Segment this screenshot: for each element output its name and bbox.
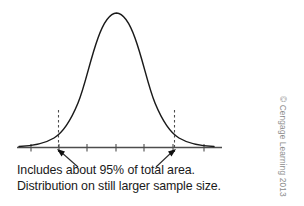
normal-distribution-figure: Includes about 95% of total area. Distri…	[0, 0, 304, 206]
caption-block: Includes about 95% of total area. Distri…	[17, 163, 247, 194]
caption-line-sample-size: Distribution on still larger sample size…	[17, 179, 247, 195]
normal-curve-path	[19, 13, 214, 147]
copyright-notice: © Cengage Learning 2013	[278, 96, 288, 186]
caption-line-area-percent: Includes about 95% of total area.	[17, 163, 247, 179]
